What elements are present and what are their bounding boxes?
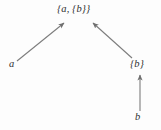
node-label-set-a-set-b: {a, {b}} [57,4,90,15]
edge-a-to-set [17,23,64,61]
edge-setb-to-set [93,23,132,58]
set-membership-diagram: {a, {b}} a {b} b [0,0,161,130]
node-label-a: a [9,59,14,70]
node-label-set-b: {b} [130,59,144,70]
node-label-b: b [135,112,140,123]
